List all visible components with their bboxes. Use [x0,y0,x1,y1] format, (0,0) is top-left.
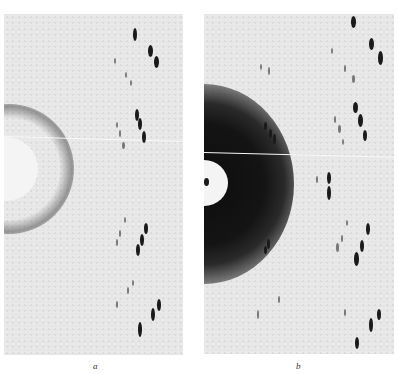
diffraction-spot [273,134,276,144]
diffraction-spot [354,252,359,266]
diffraction-spot-weak [316,176,318,183]
diffraction-spot [157,299,161,311]
diffraction-spot-weak [268,67,270,75]
diffraction-spot [264,246,267,254]
diffraction-spot-weak [116,122,118,128]
diffraction-spot [377,309,381,320]
diffraction-panel-a [4,14,183,355]
diffraction-spot-weak [132,280,134,286]
diffraction-spot-weak [344,309,346,316]
diffraction-spot [327,172,331,184]
panel-label-a: a [93,361,98,371]
diffraction-spot-weak [346,220,348,226]
panel-label-b: b [296,361,301,371]
diffraction-spot-weak [114,58,116,64]
diffraction-spot [351,16,356,28]
diffraction-spot [269,129,272,138]
diffraction-spot [138,322,142,337]
diffraction-spot-weak [257,310,259,319]
diffraction-spot [369,38,374,50]
diffraction-spot-weak [116,239,118,246]
diffraction-spot [148,45,153,57]
diffraction-panel-b [204,14,394,354]
diffraction-spot [264,122,267,130]
diffraction-spot [366,223,370,235]
diffraction-spot-weak [331,48,333,54]
diffraction-spot [142,131,146,143]
diffraction-spot-weak [344,65,346,72]
diffraction-spot-weak [336,243,339,252]
diffraction-spot-weak [338,125,341,133]
diffraction-spot-weak [334,116,336,123]
diffraction-spot-weak [119,230,121,237]
diffraction-spot [138,118,142,130]
diffraction-spot-weak [119,130,121,137]
diffraction-spot-weak [116,301,118,308]
diffraction-spot-weak [124,217,126,223]
diffraction-spot [358,114,363,127]
diffraction-spot [369,318,373,332]
diffraction-spot [133,28,137,41]
diffraction-spot-weak [260,64,262,70]
diffraction-spot [136,244,140,256]
diffraction-spot [353,102,358,113]
diffraction-spot-weak [122,142,125,149]
diffraction-spot [151,308,155,321]
diffraction-spot [355,337,359,349]
diffraction-spot-weak [127,287,129,294]
diffraction-spot-weak [130,80,132,86]
diffraction-spot-weak [342,139,344,145]
direct-beam-spot [204,178,209,186]
diffraction-spot [140,234,144,246]
diffraction-spot [378,51,383,65]
diffraction-spot [144,223,148,234]
diffraction-spot [267,239,270,249]
diffraction-spot [327,186,331,200]
diffraction-spot-weak [352,75,355,83]
diffraction-spot [154,56,159,68]
diffraction-spot-weak [125,72,127,78]
diffraction-spot-weak [341,235,343,242]
diffraction-spot [363,130,367,141]
diffraction-spot [360,240,364,252]
diffraction-spot-weak [278,296,280,303]
